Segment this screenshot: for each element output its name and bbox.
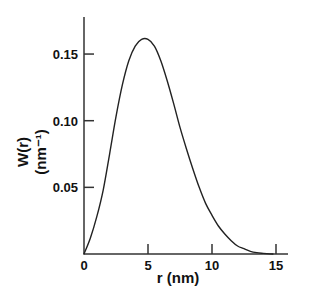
distribution-curve xyxy=(84,39,273,254)
x-axis-label: r (nm) xyxy=(157,269,200,286)
y-axis-label: W(r) xyxy=(14,137,31,167)
axes xyxy=(84,17,289,255)
y-tick-label: 0.10 xyxy=(53,114,78,129)
x-tick-label: 5 xyxy=(144,258,151,273)
distance-distribution-chart: 0510150.050.100.15 r (nm) W(r) (nm⁻¹) xyxy=(0,0,312,304)
y-tick-label: 0.15 xyxy=(53,47,78,62)
y-axis-units: (nm⁻¹) xyxy=(32,129,49,175)
y-tick-label: 0.05 xyxy=(53,180,78,195)
x-tick-label: 15 xyxy=(269,258,283,273)
x-tick-label: 0 xyxy=(80,258,87,273)
x-tick-label: 10 xyxy=(205,258,219,273)
